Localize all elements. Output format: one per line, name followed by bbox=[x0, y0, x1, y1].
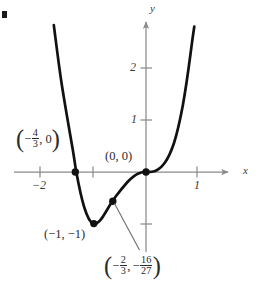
fraction-sixteen-twentysevenths: 1627 bbox=[140, 255, 152, 277]
annotation-origin: (0, 0) bbox=[105, 150, 132, 163]
x-tick-label--2: −2 bbox=[32, 179, 46, 191]
fraction-numerator: 2 bbox=[120, 255, 127, 265]
fraction-denominator: 27 bbox=[140, 265, 152, 276]
point-marker-inflection bbox=[109, 198, 116, 205]
x-tick-label-1: 1 bbox=[194, 179, 200, 191]
minus-sign-x: − bbox=[112, 260, 119, 273]
point-marker-minimum bbox=[90, 220, 97, 227]
fraction-four-thirds: 43 bbox=[32, 128, 39, 150]
y-tick-label-1: 1 bbox=[131, 113, 137, 125]
annotation-inflection: (−23,−1627) bbox=[104, 255, 161, 277]
comma: , bbox=[127, 260, 130, 273]
comma-zero: , 0 bbox=[39, 133, 52, 146]
fraction-denominator: 3 bbox=[120, 265, 127, 276]
y-axis-label: y bbox=[150, 3, 155, 14]
minus-sign: − bbox=[24, 133, 31, 146]
fraction-numerator: 4 bbox=[32, 128, 39, 138]
left-paren: ( bbox=[16, 131, 24, 146]
point-marker-x-intercept-left bbox=[72, 168, 79, 175]
fraction-denominator: 3 bbox=[32, 138, 39, 149]
point-marker-origin bbox=[142, 168, 149, 175]
annotation-x-intercept-left: (−43, 0) bbox=[16, 128, 60, 150]
right-paren: ) bbox=[52, 131, 60, 146]
y-tick-label-2: 2 bbox=[130, 61, 136, 73]
left-paren: ( bbox=[104, 258, 112, 273]
cubic-curve-figure: y x −2 1 2 1 (−43, 0) (0, 0) (−1, −1) (−… bbox=[0, 0, 258, 285]
fraction-two-thirds: 23 bbox=[120, 255, 127, 277]
inflection-leader-line bbox=[115, 204, 140, 251]
fraction-numerator: 16 bbox=[140, 255, 152, 265]
function-curve bbox=[54, 25, 195, 224]
minus-sign-y: − bbox=[132, 260, 139, 273]
annotation-minimum: (−1, −1) bbox=[44, 228, 85, 241]
x-axis-label: x bbox=[243, 165, 248, 176]
right-paren: ) bbox=[153, 258, 161, 273]
